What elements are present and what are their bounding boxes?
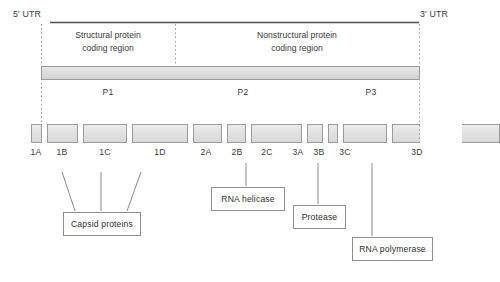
gene-box-2b	[227, 124, 246, 143]
gene-box-3b	[328, 124, 338, 143]
leader-line-capsid-1b	[62, 172, 75, 211]
utr-label-5prime: 5' UTR	[13, 9, 41, 20]
region-caption-nonstructural-line2: coding region	[257, 42, 337, 55]
region-caption-structural: Structural protein coding region	[75, 29, 140, 54]
region-caption-structural-line2: coding region	[75, 42, 140, 55]
gene-label-1d: 1D	[154, 147, 165, 158]
gene-label-2a: 2A	[201, 147, 212, 158]
gene-box-1d	[132, 124, 188, 143]
gene-box-1a	[31, 124, 42, 143]
gene-box-2a	[193, 124, 222, 143]
gene-label-2b: 2B	[232, 147, 243, 158]
region-caption-nonstructural: Nonstructural protein coding region	[257, 29, 337, 54]
gene-box-3a	[307, 124, 323, 143]
callout-rna-helicase: RNA helicase	[211, 187, 285, 211]
callout-rna-polymerase: RNA polymerase	[352, 237, 433, 261]
gene-label-1b: 1B	[57, 147, 68, 158]
gene-box-1c	[83, 124, 127, 143]
gene-box-3c	[343, 124, 387, 143]
callout-protease: Protease	[293, 205, 346, 229]
region-caption-nonstructural-line1: Nonstructural protein	[257, 29, 337, 42]
precursor-label-p2: P2	[238, 87, 249, 98]
gene-box-1b	[47, 124, 78, 143]
gene-label-1c: 1C	[99, 147, 110, 158]
gene-box-2c	[251, 124, 302, 143]
gene-label-2c: 2C	[261, 147, 272, 158]
leader-line-capsid-1d	[127, 172, 141, 211]
gene-label-3d: 3D	[411, 147, 422, 158]
precursor-label-p1: P1	[103, 87, 114, 98]
region-caption-structural-line1: Structural protein	[75, 29, 140, 42]
callout-capsid-proteins: Capsid proteins	[63, 212, 141, 236]
gene-label-3b: 3B	[314, 147, 325, 158]
gene-label-1a: 1A	[31, 147, 42, 158]
gene-label-3c: 3C	[339, 147, 350, 158]
orf-bar	[41, 66, 420, 80]
right-edge-mask	[420, 118, 462, 150]
utr-label-3prime: 3' UTR	[420, 9, 448, 20]
precursor-label-p3: P3	[366, 87, 377, 98]
gene-label-3a: 3A	[293, 147, 304, 158]
